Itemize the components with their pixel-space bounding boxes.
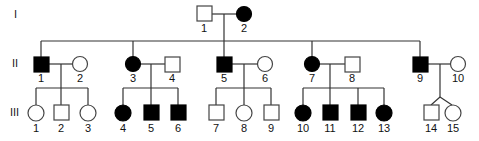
- svg-text:10: 10: [452, 72, 464, 84]
- svg-text:1: 1: [38, 72, 44, 84]
- svg-text:10: 10: [297, 122, 309, 134]
- individual-II-1: 1: [34, 57, 49, 84]
- individual-III-11: 11: [323, 105, 338, 134]
- individual-III-13: 13: [376, 105, 392, 134]
- individual-III-12: 12: [351, 105, 366, 134]
- individual-II-6: 6: [258, 57, 273, 85]
- svg-text:8: 8: [241, 122, 247, 134]
- individual-III-5: 5: [144, 105, 159, 134]
- svg-text:6: 6: [262, 72, 268, 84]
- individual-III-1: 1: [28, 105, 44, 134]
- svg-text:8: 8: [349, 72, 355, 84]
- individual-II-9: 9: [413, 57, 428, 84]
- pedigree-diagram: I II III: [0, 0, 479, 141]
- individual-II-5: 5: [217, 57, 232, 84]
- individual-III-7: 7: [209, 105, 224, 134]
- individual-III-9: 9: [264, 105, 279, 134]
- individual-III-6: 6: [171, 105, 186, 134]
- individual-III-14: 14: [424, 105, 439, 134]
- svg-text:12: 12: [352, 122, 364, 134]
- female-affected-symbol: [237, 7, 252, 22]
- individual-III-10: 10: [295, 105, 311, 134]
- svg-text:13: 13: [378, 122, 390, 134]
- svg-text:7: 7: [309, 72, 315, 84]
- individual-II-10: 10: [451, 57, 466, 85]
- individual-III-2: 2: [54, 105, 69, 134]
- svg-text:4: 4: [120, 122, 126, 134]
- svg-text:3: 3: [130, 72, 136, 84]
- svg-text:5: 5: [148, 122, 154, 134]
- svg-text:5: 5: [221, 72, 227, 84]
- svg-text:7: 7: [213, 122, 219, 134]
- individual-I-2: 2: [237, 7, 252, 35]
- individual-label: 2: [241, 22, 247, 34]
- svg-text:2: 2: [77, 72, 83, 84]
- individual-II-2: 2: [73, 57, 88, 85]
- svg-text:14: 14: [425, 122, 437, 134]
- individual-I-1: 1: [197, 6, 212, 34]
- male-unaffected-symbol: [197, 6, 212, 21]
- svg-text:15: 15: [447, 122, 459, 134]
- svg-text:1: 1: [33, 122, 39, 134]
- individual-label: 1: [201, 22, 207, 34]
- generation-label-I: I: [14, 8, 17, 20]
- svg-text:6: 6: [175, 122, 181, 134]
- individual-III-3: 3: [80, 105, 96, 134]
- individual-II-8: 8: [345, 57, 360, 84]
- generation-label-III: III: [10, 106, 19, 118]
- generation-label-II: II: [12, 57, 18, 69]
- individual-III-8: 8: [236, 105, 252, 134]
- svg-text:9: 9: [417, 72, 423, 84]
- svg-text:2: 2: [58, 122, 64, 134]
- svg-text:11: 11: [324, 122, 335, 134]
- individual-II-4: 4: [165, 57, 180, 84]
- individual-II-3: 3: [126, 57, 141, 85]
- svg-text:3: 3: [85, 122, 91, 134]
- individual-II-7: 7: [305, 57, 320, 85]
- individual-III-4: 4: [115, 105, 131, 134]
- individual-III-15: 15: [445, 105, 461, 134]
- svg-text:9: 9: [268, 122, 274, 134]
- svg-text:4: 4: [169, 72, 175, 84]
